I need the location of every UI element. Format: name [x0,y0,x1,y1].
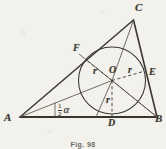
label-radius-right: r [128,65,132,75]
label-vertex-b: B [155,113,162,124]
label-vertex-a: A [4,112,11,123]
label-radius-bottom: r [106,95,110,105]
label-point-f: F [73,43,80,53]
figure-container: A B C D E F O r r r 1 2 α Fig. 98 [0,0,166,149]
figure-caption: Fig. 98 [0,141,166,148]
fraction-numerator: 1 [58,103,62,110]
alpha-symbol: α [64,103,70,115]
label-point-e: E [149,67,156,77]
label-half-alpha: 1 2 α [58,103,69,118]
fraction-one-half: 1 2 [58,103,62,118]
label-vertex-c: C [135,2,142,13]
label-radius-left: r [93,66,97,76]
fraction-denominator: 2 [58,110,62,118]
label-center-o: O [109,65,116,75]
geometry-drawing [0,0,166,149]
label-point-d: D [108,118,115,128]
